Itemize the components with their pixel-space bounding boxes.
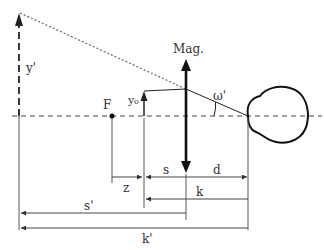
label-s-prime: s': [84, 199, 93, 213]
label-z: z: [123, 181, 129, 195]
label-s: s: [163, 163, 169, 177]
label-d: d: [213, 163, 221, 177]
label-k: k: [196, 185, 204, 199]
label-k-prime: k': [142, 232, 153, 246]
label-object-height: y₀: [127, 94, 139, 107]
label-focal-point: F: [103, 98, 111, 112]
virtual-image-arrow: [15, 13, 23, 116]
diagram-canvas: Mag. y' y₀ F ω' z s d k s' k': [0, 0, 324, 250]
magnifier-lens: [181, 59, 191, 173]
angle-arc: [214, 102, 216, 116]
focal-point-dot: [110, 114, 115, 119]
virtual-ray: [20, 13, 186, 89]
label-angle: ω': [213, 89, 226, 103]
magnifier-diagram: Mag. y' y₀ F ω' z s d k s' k': [0, 0, 324, 250]
eye-icon: [248, 87, 308, 143]
object-arrow: [141, 89, 187, 116]
label-lens: Mag.: [173, 42, 204, 56]
label-image-height: y': [25, 61, 36, 75]
